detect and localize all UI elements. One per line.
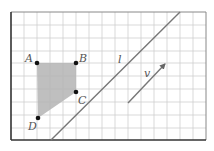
polygon-abcd [37,63,76,118]
point-b [74,61,79,66]
label-d: D [27,120,37,133]
label-v: v [144,67,151,80]
label-c: C [78,94,87,107]
point-a [35,61,40,66]
label-l: l [118,53,122,66]
grid-diagram: A B C D l v [0,0,214,151]
label-a: A [24,52,33,65]
label-b: B [78,52,87,65]
